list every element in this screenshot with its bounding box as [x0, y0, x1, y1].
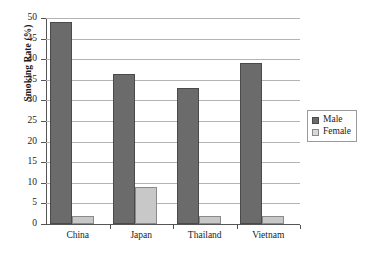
- bar-china-male: [50, 22, 72, 224]
- bar-vietnam-female: [262, 216, 284, 224]
- legend-label-female: Female: [323, 127, 351, 137]
- x-tick-label-thailand: Thailand: [173, 231, 237, 241]
- y-tick-label: 25: [0, 116, 37, 126]
- y-tick-label: 0: [0, 219, 37, 229]
- bar-chart: Smoking Rate (%) 05101520253035404550 Ch…: [0, 0, 365, 261]
- y-tick-label: 35: [0, 75, 37, 85]
- bar-vietnam-male: [240, 63, 262, 224]
- y-tick-label: 10: [0, 178, 37, 188]
- bar-japan-female: [135, 187, 157, 224]
- gridline: [46, 18, 300, 19]
- y-tick-label: 50: [0, 13, 37, 23]
- x-tick-mark: [237, 225, 238, 229]
- x-tick-label-vietnam: Vietnam: [237, 231, 301, 241]
- x-tick-mark: [110, 225, 111, 229]
- gridline: [46, 59, 300, 60]
- chart-legend: Male Female: [307, 110, 357, 142]
- bar-thailand-male: [177, 88, 199, 224]
- x-tick-mark: [173, 225, 174, 229]
- y-tick-label: 40: [0, 54, 37, 64]
- y-tick-label: 5: [0, 198, 37, 208]
- y-tick-label: 45: [0, 34, 37, 44]
- y-tick-label: 15: [0, 157, 37, 167]
- bar-japan-male: [113, 74, 135, 224]
- x-tick-label-china: China: [46, 231, 110, 241]
- legend-item-male[interactable]: Male: [312, 114, 351, 126]
- gridline: [46, 39, 300, 40]
- legend-swatch-female-icon: [312, 129, 319, 136]
- bar-thailand-female: [199, 216, 221, 224]
- x-tick-mark: [300, 225, 301, 229]
- x-tick-label-japan: Japan: [110, 231, 174, 241]
- legend-label-male: Male: [323, 115, 343, 125]
- legend-swatch-male-icon: [312, 117, 319, 124]
- plot-area: [46, 18, 300, 224]
- y-tick-label: 20: [0, 137, 37, 147]
- legend-item-female[interactable]: Female: [312, 126, 351, 138]
- bar-china-female: [72, 216, 94, 224]
- y-tick-label: 30: [0, 95, 37, 105]
- y-tick-mark: [41, 224, 46, 225]
